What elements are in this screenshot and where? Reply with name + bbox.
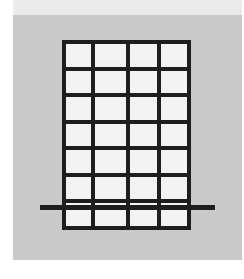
grid-cell xyxy=(130,71,157,94)
grid-cell xyxy=(130,124,157,147)
grid-cell xyxy=(66,124,91,147)
grid-cell xyxy=(66,177,91,200)
top-band xyxy=(13,0,242,15)
grid-cell xyxy=(161,124,187,147)
grid-cell xyxy=(130,150,157,173)
grid-cell xyxy=(130,177,157,200)
grid-cell xyxy=(130,44,157,67)
grid-cell xyxy=(66,97,91,120)
grid-cell xyxy=(130,97,157,120)
grid-cell xyxy=(161,71,187,94)
grid-cell xyxy=(66,71,91,94)
grid-cell xyxy=(95,71,126,94)
grid-cell xyxy=(95,177,126,200)
grid-cell xyxy=(95,150,126,173)
grid-cell xyxy=(95,97,126,120)
grid-cell xyxy=(66,150,91,173)
grid-cell xyxy=(161,44,187,67)
grid-cell xyxy=(161,97,187,120)
grid-cell xyxy=(66,44,91,67)
grid-cell xyxy=(95,124,126,147)
grid-cell xyxy=(161,177,187,200)
grid-cell xyxy=(161,150,187,173)
window-grid-icon xyxy=(62,40,191,230)
horizontal-bar xyxy=(40,205,215,210)
grid-cell xyxy=(95,44,126,67)
